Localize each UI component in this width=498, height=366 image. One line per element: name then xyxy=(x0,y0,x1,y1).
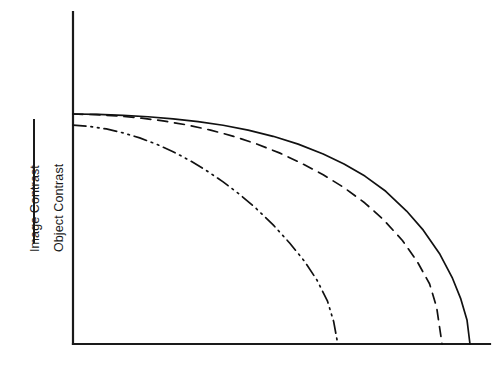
curve-dashed xyxy=(73,114,442,344)
y-axis-label-numerator: Image Contrast xyxy=(28,165,42,252)
contrast-transfer-figure: Image Contrast Object Contrast xyxy=(0,0,498,366)
plot-canvas xyxy=(0,0,498,366)
y-axis-label: Image Contrast Object Contrast xyxy=(6,104,68,256)
curve-dash-dot-dot xyxy=(73,125,338,344)
y-axis-label-denominator: Object Contrast xyxy=(52,164,66,252)
curve-solid xyxy=(73,114,470,344)
